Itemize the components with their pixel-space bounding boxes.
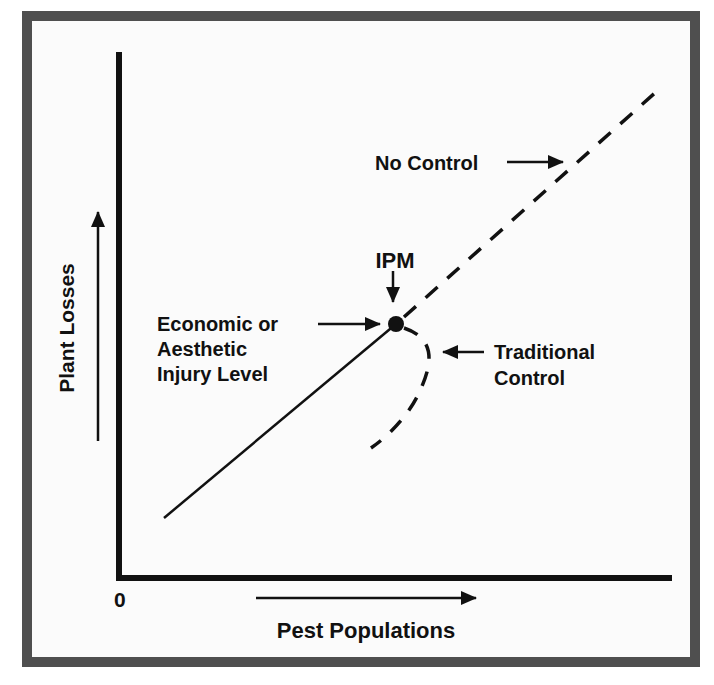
no-control-curve xyxy=(404,92,656,317)
ipm-diagram: Plant Losses Pest Populations 0 IPM No C… xyxy=(0,0,714,685)
injury-level-label: Economic or Aesthetic Injury Level xyxy=(157,313,278,385)
no-control-label: No Control xyxy=(375,152,478,174)
traditional-control-label: Traditional Control xyxy=(494,341,595,389)
ipm-label: IPM xyxy=(375,248,414,273)
injury-level-line-2: Aesthetic xyxy=(157,338,247,360)
ipm-point-marker xyxy=(388,316,404,332)
injury-level-line-1: Economic or xyxy=(157,313,278,335)
traditional-control-curve xyxy=(371,328,429,448)
traditional-line-2: Control xyxy=(494,367,565,389)
y-axis-label: Plant Losses xyxy=(55,263,78,393)
traditional-line-1: Traditional xyxy=(494,341,595,363)
injury-level-line-3: Injury Level xyxy=(157,363,268,385)
origin-label: 0 xyxy=(114,588,126,611)
x-axis-label: Pest Populations xyxy=(277,618,455,643)
